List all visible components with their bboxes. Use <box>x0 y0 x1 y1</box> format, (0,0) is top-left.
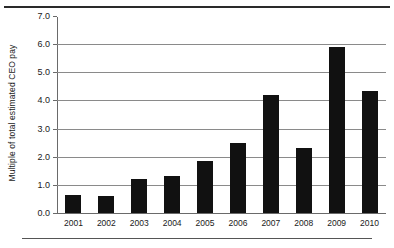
header-rule <box>4 6 390 8</box>
x-axis-tick-label: 2003 <box>123 219 156 228</box>
bar <box>362 91 378 213</box>
bar <box>98 196 114 213</box>
x-axis-tick-label: 2006 <box>222 219 255 228</box>
x-axis-tick-label: 2007 <box>254 219 287 228</box>
x-axis-tick-label: 2009 <box>320 219 353 228</box>
bar <box>329 47 345 213</box>
bar <box>65 195 81 213</box>
bar <box>296 148 312 213</box>
y-axis-title: Multiple of total estimated CEO pay <box>7 13 17 213</box>
bar <box>230 143 246 213</box>
bar <box>197 161 213 213</box>
x-axis-baseline <box>57 213 386 214</box>
x-axis-tick-label: 2008 <box>287 219 320 228</box>
x-axis-tick-label: 2001 <box>57 219 90 228</box>
x-axis-tick-label: 2010 <box>353 219 386 228</box>
plot-area <box>57 16 386 213</box>
footer-rule <box>22 238 372 239</box>
bar <box>263 95 279 213</box>
chart-figure: Multiple of total estimated CEO pay 0.01… <box>0 0 394 248</box>
bar <box>131 179 147 213</box>
x-axis-tick-label: 2002 <box>90 219 123 228</box>
bar <box>164 176 180 213</box>
x-axis-tick-label: 2005 <box>189 219 222 228</box>
gridline <box>57 44 386 45</box>
gridline <box>57 16 386 17</box>
x-axis-tick-label: 2004 <box>156 219 189 228</box>
